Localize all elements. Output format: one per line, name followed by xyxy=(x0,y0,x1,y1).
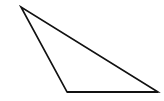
triangle xyxy=(21,7,158,92)
diagram-canvas xyxy=(0,0,164,101)
triangle-diagram xyxy=(0,0,164,101)
